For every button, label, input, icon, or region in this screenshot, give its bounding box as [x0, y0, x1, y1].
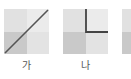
panel-third-cropped: [122, 9, 131, 54]
panel-ga: [4, 9, 49, 54]
label-ga: 가: [16, 57, 36, 72]
panel-na: [63, 9, 108, 54]
diagonal-line-icon: [4, 9, 49, 54]
label-na: 나: [75, 57, 95, 72]
quadrant-top-left: [122, 9, 131, 32]
l-shape-line-icon: [63, 9, 108, 54]
quadrant-bottom-left: [122, 32, 131, 55]
